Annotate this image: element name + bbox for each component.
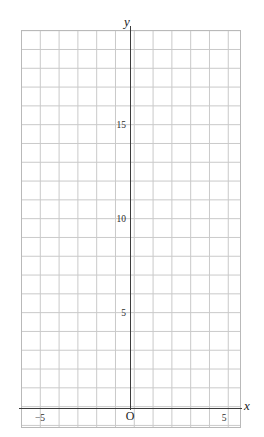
y-axis-label: y [124,15,130,28]
x-axis-label: x [244,399,250,412]
y-tick-label-10: 10 [104,214,126,224]
y-tick-label-15: 15 [104,120,126,130]
y-tick-label-5: 5 [104,308,126,318]
origin-label: O [119,410,141,423]
coordinate-grid-figure: y x 15 10 5 −5 5 O [0,0,264,437]
x-tick-label-negative-5: −5 [28,413,52,423]
y-axis-line [130,26,131,410]
x-tick-label-5: 5 [212,413,236,423]
